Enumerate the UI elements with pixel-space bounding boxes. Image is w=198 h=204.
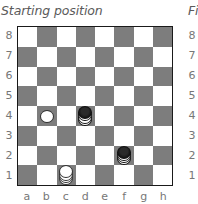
square-e5[interactable]	[95, 86, 114, 106]
square-d8[interactable]	[76, 27, 95, 47]
square-h7[interactable]	[153, 47, 172, 67]
black-piece-f2-stack[interactable]	[117, 146, 131, 166]
square-a5[interactable]	[18, 86, 37, 106]
next-rank-label-6: 6	[186, 69, 198, 82]
rank-label-6: 6	[3, 69, 15, 82]
rank-label-7: 7	[3, 49, 15, 62]
square-a7[interactable]	[18, 47, 37, 67]
rank-label-1: 1	[3, 169, 15, 182]
file-label-c: c	[60, 190, 72, 203]
square-b1[interactable]	[37, 165, 56, 185]
rank-label-4: 4	[3, 109, 15, 122]
square-e3[interactable]	[95, 126, 114, 146]
next-rank-label-7: 7	[186, 49, 198, 62]
square-b8[interactable]	[37, 27, 56, 47]
white-piece-b4[interactable]	[40, 110, 54, 123]
file-label-b: b	[40, 190, 52, 203]
square-d1[interactable]	[76, 165, 95, 185]
black-disc-top	[117, 146, 131, 159]
square-c3[interactable]	[57, 126, 76, 146]
square-h4[interactable]	[153, 106, 172, 126]
file-label-a: a	[21, 190, 33, 203]
square-b6[interactable]	[37, 67, 56, 87]
square-a2[interactable]	[18, 146, 37, 166]
file-label-d: d	[79, 190, 91, 203]
square-b7[interactable]	[37, 47, 56, 67]
square-f4[interactable]	[114, 106, 133, 126]
black-piece-d4-stack[interactable]	[78, 106, 92, 126]
next-rank-label-2: 2	[186, 149, 198, 162]
square-c1[interactable]	[57, 165, 76, 185]
square-d5[interactable]	[76, 86, 95, 106]
square-h2[interactable]	[153, 146, 172, 166]
square-c2[interactable]	[57, 146, 76, 166]
square-e2[interactable]	[95, 146, 114, 166]
square-d6[interactable]	[76, 67, 95, 87]
rank-label-3: 3	[3, 129, 15, 142]
rank-label-8: 8	[3, 29, 15, 42]
next-diagram-title: Fi	[188, 3, 198, 18]
black-disc-top	[78, 106, 92, 119]
next-rank-label-3: 3	[186, 129, 198, 142]
white-disc-top	[40, 110, 54, 123]
square-g3[interactable]	[134, 126, 153, 146]
square-f1[interactable]	[114, 165, 133, 185]
square-e4[interactable]	[95, 106, 114, 126]
square-a8[interactable]	[18, 27, 37, 47]
file-label-f: f	[118, 190, 130, 203]
file-label-g: g	[138, 190, 150, 203]
square-e1[interactable]	[95, 165, 114, 185]
square-c5[interactable]	[57, 86, 76, 106]
square-f7[interactable]	[114, 47, 133, 67]
square-d2[interactable]	[76, 146, 95, 166]
square-e8[interactable]	[95, 27, 114, 47]
square-d4[interactable]	[76, 106, 95, 126]
square-g2[interactable]	[134, 146, 153, 166]
file-label-e: e	[99, 190, 111, 203]
white-disc-top	[59, 165, 73, 178]
square-a1[interactable]	[18, 165, 37, 185]
square-f3[interactable]	[114, 126, 133, 146]
square-f8[interactable]	[114, 27, 133, 47]
square-d7[interactable]	[76, 47, 95, 67]
square-g4[interactable]	[134, 106, 153, 126]
square-c8[interactable]	[57, 27, 76, 47]
diagram-title: Starting position	[1, 3, 103, 18]
square-c6[interactable]	[57, 67, 76, 87]
square-g7[interactable]	[134, 47, 153, 67]
square-g6[interactable]	[134, 67, 153, 87]
next-rank-label-1: 1	[186, 169, 198, 182]
square-b3[interactable]	[37, 126, 56, 146]
square-b5[interactable]	[37, 86, 56, 106]
square-f6[interactable]	[114, 67, 133, 87]
square-c4[interactable]	[57, 106, 76, 126]
square-a4[interactable]	[18, 106, 37, 126]
next-rank-label-4: 4	[186, 109, 198, 122]
checkers-board	[17, 26, 173, 186]
rank-label-2: 2	[3, 149, 15, 162]
square-e6[interactable]	[95, 67, 114, 87]
square-h8[interactable]	[153, 27, 172, 47]
white-piece-c1-stack[interactable]	[59, 165, 73, 185]
next-rank-label-5: 5	[186, 89, 198, 102]
square-c7[interactable]	[57, 47, 76, 67]
square-h5[interactable]	[153, 86, 172, 106]
square-h6[interactable]	[153, 67, 172, 87]
square-e7[interactable]	[95, 47, 114, 67]
file-label-h: h	[157, 190, 169, 203]
square-g1[interactable]	[134, 165, 153, 185]
square-b2[interactable]	[37, 146, 56, 166]
square-g8[interactable]	[134, 27, 153, 47]
square-h1[interactable]	[153, 165, 172, 185]
next-rank-label-8: 8	[186, 29, 198, 42]
square-f2[interactable]	[114, 146, 133, 166]
square-a3[interactable]	[18, 126, 37, 146]
square-b4[interactable]	[37, 106, 56, 126]
rank-label-5: 5	[3, 89, 15, 102]
square-g5[interactable]	[134, 86, 153, 106]
square-f5[interactable]	[114, 86, 133, 106]
square-h3[interactable]	[153, 126, 172, 146]
square-d3[interactable]	[76, 126, 95, 146]
square-a6[interactable]	[18, 67, 37, 87]
